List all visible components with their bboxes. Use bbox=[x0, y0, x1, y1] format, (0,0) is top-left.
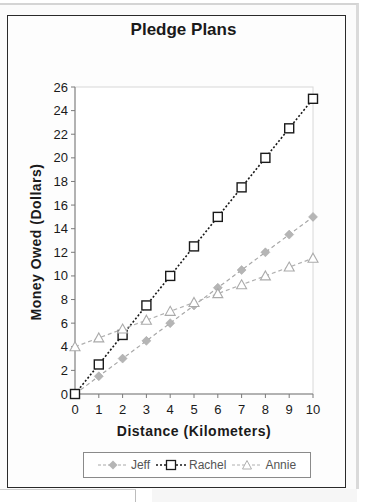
y-tick-label: 2 bbox=[61, 363, 68, 378]
legend-label-rachel: Rachel bbox=[189, 458, 226, 472]
triangle-marker-icon bbox=[232, 459, 262, 471]
y-tick-label: 18 bbox=[54, 174, 68, 189]
x-tick-label: 4 bbox=[167, 402, 174, 417]
x-tick-label: 9 bbox=[286, 402, 293, 417]
data-point bbox=[94, 360, 103, 369]
y-tick-label: 6 bbox=[61, 316, 68, 331]
data-point bbox=[71, 390, 80, 399]
x-tick-label: 0 bbox=[71, 402, 78, 417]
x-tick-label: 8 bbox=[262, 402, 269, 417]
square-marker-icon bbox=[156, 459, 186, 471]
legend-item-annie: Annie bbox=[232, 458, 296, 472]
data-point bbox=[261, 153, 270, 162]
plot-background bbox=[75, 87, 313, 394]
data-point bbox=[213, 212, 222, 221]
page-divider-tick bbox=[135, 490, 136, 502]
y-tick-label: 10 bbox=[54, 268, 68, 283]
legend-label-annie: Annie bbox=[265, 458, 296, 472]
legend: Jeff Rachel Annie bbox=[83, 452, 311, 478]
data-point bbox=[142, 301, 151, 310]
legend-item-jeff: Jeff bbox=[98, 458, 150, 472]
plot-area: 02468101214161820222426012345678910 bbox=[0, 0, 367, 502]
page-divider bbox=[0, 489, 136, 490]
x-tick-label: 6 bbox=[214, 402, 221, 417]
y-tick-label: 20 bbox=[54, 150, 68, 165]
legend-item-rachel: Rachel bbox=[156, 458, 226, 472]
y-tick-label: 16 bbox=[54, 198, 68, 213]
data-point bbox=[237, 183, 246, 192]
x-tick-label: 3 bbox=[143, 402, 150, 417]
x-tick-label: 10 bbox=[306, 402, 320, 417]
diamond-marker-icon bbox=[98, 459, 128, 471]
y-tick-label: 24 bbox=[54, 103, 68, 118]
x-tick-label: 7 bbox=[238, 402, 245, 417]
data-point bbox=[190, 242, 199, 251]
y-tick-label: 4 bbox=[61, 339, 68, 354]
y-tick-label: 26 bbox=[54, 80, 68, 95]
data-point bbox=[309, 94, 318, 103]
y-tick-label: 12 bbox=[54, 245, 68, 260]
legend-label-jeff: Jeff bbox=[131, 458, 150, 472]
data-point bbox=[166, 271, 175, 280]
y-tick-label: 14 bbox=[54, 221, 68, 236]
y-tick-label: 22 bbox=[54, 127, 68, 142]
page-bottom-panel bbox=[152, 489, 357, 502]
data-point bbox=[285, 124, 294, 133]
axes: 02468101214161820222426012345678910 bbox=[54, 80, 321, 418]
x-tick-label: 2 bbox=[119, 402, 126, 417]
x-tick-label: 5 bbox=[190, 402, 197, 417]
y-tick-label: 0 bbox=[61, 387, 68, 402]
y-tick-label: 8 bbox=[61, 292, 68, 307]
x-tick-label: 1 bbox=[95, 402, 102, 417]
